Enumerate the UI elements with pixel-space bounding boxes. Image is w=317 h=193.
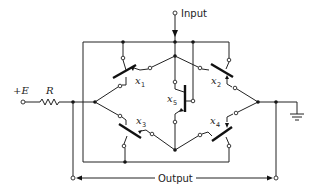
supply-label: +E (13, 85, 29, 96)
svg-text:1: 1 (141, 81, 145, 89)
svg-text:5: 5 (173, 99, 177, 107)
output-label: Output (158, 173, 193, 184)
ground-icon (290, 102, 304, 120)
resistor-icon (40, 99, 59, 105)
bottom-bus (83, 148, 229, 162)
input-terminal: Input (172, 8, 207, 42)
arrow-down-icon (172, 30, 178, 37)
top-bus (83, 42, 229, 162)
resistor-label: R (45, 85, 54, 96)
svg-text:2: 2 (217, 81, 221, 89)
arrow-left-icon (76, 176, 82, 181)
input-label: Input (181, 8, 207, 19)
switch-x2: x 2 (175, 56, 258, 102)
bridge-circuit-diagram: Input +E R x 1 (0, 0, 317, 193)
svg-text:4: 4 (216, 121, 220, 129)
switch-x3: x 3 (95, 102, 175, 162)
output-terminals: Output (71, 173, 278, 184)
arrow-right-icon (267, 176, 273, 181)
svg-text:3: 3 (142, 121, 146, 129)
switch-x1: x 1 (95, 42, 175, 102)
switch-x4: x 4 (175, 102, 258, 150)
